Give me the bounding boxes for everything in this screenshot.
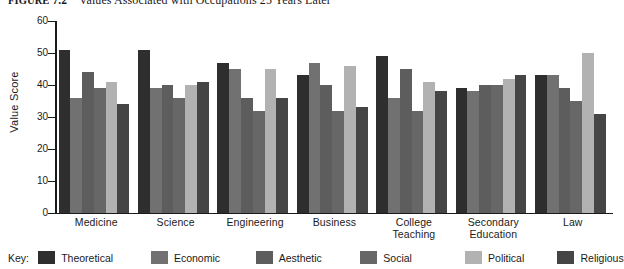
bar <box>265 69 277 213</box>
bar <box>344 66 356 213</box>
bar <box>59 50 71 213</box>
bar <box>309 63 321 213</box>
y-tick-label: 20 <box>24 144 48 154</box>
bar <box>582 53 594 213</box>
bar <box>388 98 400 213</box>
bar <box>117 104 129 213</box>
y-tick-label: 50 <box>24 48 48 58</box>
y-tick-label: 30 <box>24 112 48 122</box>
legend-swatch-icon <box>151 251 168 264</box>
bar <box>412 111 424 213</box>
bar <box>106 82 118 213</box>
legend-swatch-icon <box>557 251 574 264</box>
bar <box>400 69 412 213</box>
x-tick-label: CollegeTeaching <box>374 216 453 240</box>
x-tick-label-line: College <box>374 216 453 228</box>
legend-label: Political <box>488 252 524 264</box>
y-axis-label: Value Score <box>8 32 20 172</box>
bar <box>435 91 447 213</box>
bar <box>547 75 559 213</box>
legend-label: Social <box>383 252 412 264</box>
x-tick-label-line: Education <box>454 228 533 240</box>
bar <box>229 69 241 213</box>
x-tick-label-line: Science <box>136 216 215 228</box>
bar <box>185 85 197 213</box>
plot-area <box>57 21 613 213</box>
legend-item-religious: Religious <box>557 251 623 264</box>
x-tick-label: SecondaryEducation <box>454 216 533 240</box>
bar <box>376 56 388 213</box>
bar-group <box>57 21 136 213</box>
legend-swatch-icon <box>465 251 482 264</box>
bar <box>570 101 582 213</box>
legend-item-theoretical: Theoretical <box>38 251 113 264</box>
bar-chart: Value Score 0102030405060 MedicineScienc… <box>0 0 616 240</box>
x-tick-label: Science <box>136 216 215 240</box>
legend-label: Religious <box>580 252 623 264</box>
x-tick-label: Business <box>295 216 374 240</box>
x-tick-label-line: Law <box>533 216 612 228</box>
bar <box>503 79 515 213</box>
bar <box>241 98 253 213</box>
bar <box>320 85 332 213</box>
bar <box>467 91 479 213</box>
bar <box>559 88 571 213</box>
bar-group <box>454 21 533 213</box>
bar <box>423 82 435 213</box>
x-tick-label-line: Secondary <box>454 216 533 228</box>
bar <box>138 50 150 213</box>
legend-swatch-icon <box>256 251 273 264</box>
x-axis-labels: MedicineScienceEngineeringBusinessColleg… <box>57 216 613 240</box>
x-tick-label-line: Business <box>295 216 374 228</box>
legend-label: Theoretical <box>61 252 113 264</box>
x-tick-label-line: Medicine <box>57 216 136 228</box>
bar-group <box>215 21 294 213</box>
bar-group <box>533 21 612 213</box>
bar <box>173 98 185 213</box>
bar <box>82 72 94 213</box>
bar <box>253 111 265 213</box>
y-tick-label: 0 <box>24 208 48 218</box>
bar <box>515 75 527 213</box>
bar <box>150 88 162 213</box>
legend-label: Economic <box>174 252 220 264</box>
bar <box>276 98 288 213</box>
bar <box>197 82 209 213</box>
bar <box>491 85 503 213</box>
y-tick-label: 40 <box>24 80 48 90</box>
bar <box>297 75 309 213</box>
bar <box>535 75 547 213</box>
bar <box>70 98 82 213</box>
bar <box>217 63 229 213</box>
y-tick-label: 60 <box>24 16 48 26</box>
bar <box>456 88 468 213</box>
x-tick-label-line: Engineering <box>215 216 294 228</box>
chart-legend: Key: TheoreticalEconomicAestheticSocialP… <box>0 246 616 269</box>
bar <box>594 114 606 213</box>
x-tick-label: Engineering <box>215 216 294 240</box>
x-tick-label-line: Teaching <box>374 228 453 240</box>
bar <box>356 107 368 213</box>
y-axis-tick-labels: 0102030405060 <box>24 14 48 220</box>
bar <box>94 88 106 213</box>
legend-item-political: Political <box>465 251 524 264</box>
bar <box>479 85 491 213</box>
legend-key-label: Key: <box>8 252 29 264</box>
bar-group <box>295 21 374 213</box>
x-tick-label: Medicine <box>57 216 136 240</box>
legend-swatch-icon <box>360 251 377 264</box>
legend-item-economic: Economic <box>151 251 220 264</box>
bar-group <box>374 21 453 213</box>
bar-group <box>136 21 215 213</box>
legend-label: Aesthetic <box>279 252 322 264</box>
bar <box>332 111 344 213</box>
legend-item-social: Social <box>360 251 412 264</box>
legend-item-aesthetic: Aesthetic <box>256 251 322 264</box>
legend-swatch-icon <box>38 251 55 264</box>
bar <box>162 85 174 213</box>
y-tick-label: 10 <box>24 176 48 186</box>
x-tick-label: Law <box>533 216 612 240</box>
